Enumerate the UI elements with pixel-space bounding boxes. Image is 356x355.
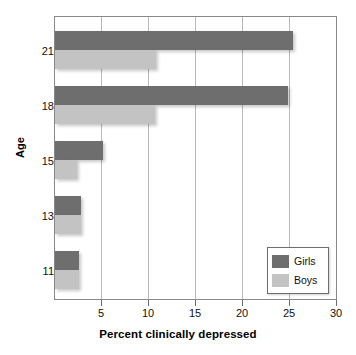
legend-label-boys: Boys xyxy=(294,275,317,286)
legend-swatch-girls-icon xyxy=(272,255,289,268)
x-tick-mark-10 xyxy=(148,300,149,306)
bar-group-age-13 xyxy=(55,196,336,238)
bar-boys-age-13 xyxy=(55,215,81,234)
legend-label-girls: Girls xyxy=(294,256,316,267)
x-tick-mark-20 xyxy=(242,300,243,306)
legend-item-boys: Boys xyxy=(272,272,324,289)
y-axis-title: Age xyxy=(14,137,26,158)
x-tick-label-15: 15 xyxy=(189,307,201,319)
x-tick-mark-25 xyxy=(289,300,290,306)
bar-boys-age-18 xyxy=(55,105,155,124)
x-tick-mark-30 xyxy=(336,300,337,306)
bar-girls-age-18 xyxy=(55,86,288,105)
y-tick-label-21: 21 xyxy=(40,45,54,57)
bar-girls-age-13 xyxy=(55,196,81,215)
plot-area: Girls Boys xyxy=(54,16,337,300)
x-tick-label-25: 25 xyxy=(283,307,295,319)
bar-chart-figure: Girls Boys Age 21 18 15 13 11 5 10 15 20… xyxy=(0,0,356,355)
x-tick-label-5: 5 xyxy=(98,307,104,319)
bar-boys-age-11 xyxy=(55,270,79,289)
chart-legend: Girls Boys xyxy=(267,247,329,294)
bar-boys-age-15 xyxy=(55,160,77,179)
y-tick-label-15: 15 xyxy=(40,155,54,167)
x-tick-label-30: 30 xyxy=(330,307,342,319)
x-tick-mark-15 xyxy=(195,300,196,306)
legend-swatch-boys-icon xyxy=(272,274,289,287)
bar-girls-age-11 xyxy=(55,251,79,270)
x-tick-mark-5 xyxy=(101,300,102,306)
y-tick-label-13: 13 xyxy=(40,210,54,222)
bar-girls-age-21 xyxy=(55,31,293,50)
bar-group-age-21 xyxy=(55,31,336,73)
x-axis-title: Percent clinically depressed xyxy=(0,328,356,340)
bar-group-age-15 xyxy=(55,141,336,183)
bar-group-age-18 xyxy=(55,86,336,128)
x-tick-label-10: 10 xyxy=(142,307,154,319)
bar-girls-age-15 xyxy=(55,141,103,160)
y-tick-label-18: 18 xyxy=(40,100,54,112)
legend-item-girls: Girls xyxy=(272,253,324,270)
x-tick-label-20: 20 xyxy=(236,307,248,319)
bar-boys-age-21 xyxy=(55,50,156,69)
y-tick-label-11: 11 xyxy=(40,265,54,277)
